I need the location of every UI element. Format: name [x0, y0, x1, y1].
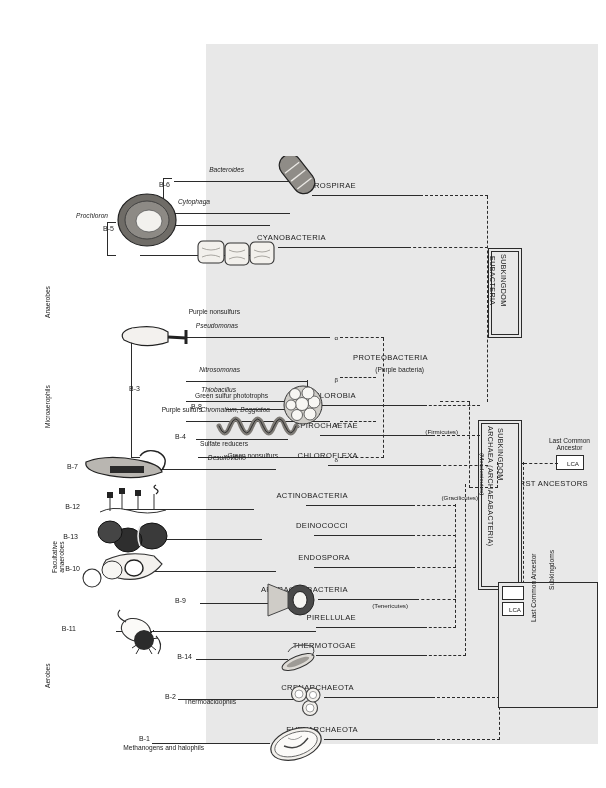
tip-spirochaetae	[320, 435, 432, 436]
legend-subkingdom-text: Subkingdoms	[548, 550, 555, 590]
gracilicutes-branch-cyano	[408, 247, 488, 248]
lca-caption-line1: Last Common Ancestor	[549, 438, 590, 452]
proteo-hub-riser	[383, 338, 384, 458]
code-b7: B-7	[67, 463, 78, 470]
axis-label-aerobes: Aerobes	[44, 663, 51, 688]
sub-chloroflexa: Green nonsulfurs	[227, 453, 278, 460]
name-endospora: ENDOSPORA	[298, 554, 350, 562]
firmicutes-branch-deinococci	[412, 535, 456, 536]
micrograph-bacteroides	[258, 156, 318, 202]
lca-caption: Last Common Ancestor	[549, 438, 590, 452]
subkingdom-eubacteria-line2: EUBACTERIA	[488, 256, 497, 305]
genus-cytophaga: Cytophaga	[178, 199, 210, 206]
code-b10: B-10	[65, 565, 80, 572]
axis-label-facultative-anaerobes: Facultative anaerobes	[44, 541, 65, 573]
subkingdom-eubacteria-box: SUBKINGDOM EUBACTERIA	[488, 248, 522, 338]
micrograph-deinococci	[96, 520, 170, 554]
gracilicutes-riser	[469, 402, 470, 488]
tenericutes-label: (Tenericutes)	[372, 604, 408, 611]
micrograph-actinobacteria	[98, 484, 168, 520]
legend-lca-symbol-text: LCA	[509, 608, 521, 615]
gracilicutes-branch-sapro	[420, 195, 488, 196]
gracilicutes-label: (Gracilicutes)	[442, 496, 478, 503]
code-b1: B-1	[139, 735, 150, 742]
gracilicutes-branch-chlorobia	[424, 405, 480, 406]
name-actinobacteria: ACTINOBACTERIA	[276, 492, 348, 500]
gracilicutes-link	[470, 487, 498, 488]
gracilicutes-branch-spiro	[432, 435, 480, 436]
genus-bacteroides: Bacteroides	[209, 167, 244, 174]
legend-subkingdom-symbol	[502, 586, 524, 600]
rotated-diagram: FIRST ANCESTORS LCA Last Common Ancestor…	[0, 0, 606, 788]
legend-box	[498, 582, 598, 708]
lead-chloroflexa	[150, 469, 276, 470]
code-b6: B-6	[159, 181, 170, 188]
tip-nitrosomonas	[186, 381, 308, 382]
code-b9: B-9	[175, 597, 186, 604]
axis-label-anaerobes: Anaerobes	[44, 286, 51, 318]
tip-cytophaga	[174, 213, 290, 214]
gracilicutes-branch-proteo	[440, 401, 470, 402]
code-b14: B-14	[177, 653, 192, 660]
subkingdom-eubacteria-line1: SUBKINGDOM	[499, 254, 508, 307]
label-purple-nonsulfurs: Purple nonsulfurs	[189, 309, 240, 316]
code-b5: B-5	[103, 225, 114, 232]
tip-cyanobacteria	[278, 247, 408, 248]
genus-nitrosomonas: Nitrosomonas	[199, 367, 240, 374]
firmicutes-branch-pirellulae	[424, 627, 456, 628]
lca-tag-label: LCA	[567, 462, 579, 469]
tip-thermotogae	[316, 655, 424, 656]
gracilicutes-riser2	[487, 196, 488, 402]
name-deinococci: DEINOCOCCI	[296, 522, 348, 530]
gracilicutes-branch-chloroflexa	[438, 465, 488, 466]
subkingdom-archaea-box: SUBKINGDOM ARCHAEA (ARCHAEABACTERIA) (Me…	[478, 420, 522, 590]
lead-thermotogae	[196, 659, 288, 660]
bracket-b3	[131, 334, 140, 458]
euryarchaeota-branch	[432, 739, 500, 740]
tip-pseudomonas	[186, 337, 330, 338]
proteo-beta-dash	[340, 377, 376, 378]
micrograph-pirellulae	[104, 608, 166, 660]
proteo-alpha-dash	[340, 337, 384, 338]
root-trunk	[524, 463, 558, 464]
tip-endospora	[314, 567, 412, 568]
tip-chlorobia	[322, 405, 424, 406]
firmicutes-branch-aphragma	[416, 599, 456, 600]
tip-chloroflexa	[328, 465, 438, 466]
lead-crenarchaeota	[178, 699, 300, 700]
micrograph-aphragmabacteria	[262, 580, 316, 620]
code-b3: B-3	[129, 385, 140, 392]
micrograph-crenarchaeota	[288, 684, 322, 718]
micrograph-chloroflexa	[80, 448, 166, 484]
micrograph-chlorobia	[282, 384, 324, 426]
legend-lca-text: Last Common Ancestor	[530, 553, 537, 622]
axis-label-facultative-text: Facultative anaerobes	[51, 541, 65, 573]
sub-crenarchaeota: Thermoacidophils	[184, 699, 236, 706]
micrograph-pseudomonas	[110, 320, 188, 352]
micrograph-endospora	[80, 550, 168, 590]
firmicutes-branch-actino	[412, 505, 456, 506]
tip-crenarchaeota	[324, 697, 432, 698]
genus-pseudomonas: Pseudomonas	[196, 323, 238, 330]
proteobacteria-name: PROTEOBACTERIA	[353, 354, 428, 362]
lead-euryarchaeota	[152, 743, 270, 744]
micrograph-prochloron	[116, 192, 178, 248]
axis-label-microaerophils: Microaerophils	[44, 385, 51, 428]
tip-aphragmabacteria	[318, 599, 416, 600]
proteo-greek-beta: β	[334, 378, 338, 385]
firmicutes-riser	[455, 504, 456, 628]
micrograph-euryarchaeota	[268, 724, 324, 764]
genus-prochloron: Prochloron	[76, 213, 108, 220]
figure-canvas: FIRST ANCESTORS LCA Last Common Ancestor…	[0, 0, 606, 788]
sub-euryarchaeota: Methanogens and halophils	[123, 745, 204, 752]
code-b12: B-12	[65, 503, 80, 510]
code-b8: B-8	[191, 403, 202, 410]
micrograph-cyanobacteria	[192, 238, 278, 270]
tip-saprospirae	[312, 195, 420, 196]
code-b2: B-2	[165, 693, 176, 700]
code-b4: B-4	[175, 433, 186, 440]
tip-actinobacteria	[306, 505, 412, 506]
crenarchaeota-branch	[432, 697, 500, 698]
code-b13: B-13	[63, 533, 78, 540]
sub-chlorobia: Green sulfur phototrophs	[195, 393, 268, 400]
